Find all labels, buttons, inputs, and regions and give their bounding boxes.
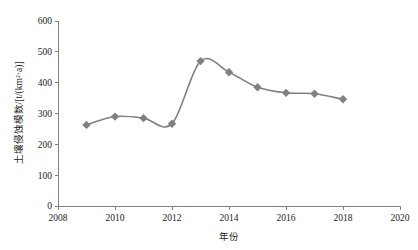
y-tick-label: 400 xyxy=(38,78,53,88)
data-point-marker xyxy=(111,112,119,120)
y-tick-label: 200 xyxy=(38,140,53,150)
x-axis-group: 2008201020122014201620182020 xyxy=(49,206,410,223)
data-point-marker xyxy=(253,83,261,91)
x-tick-label: 2018 xyxy=(334,213,353,223)
data-point-marker xyxy=(139,114,147,122)
series-line-soil-erosion xyxy=(87,59,344,127)
y-axis-title: 土壤侵蚀模数/[t/(km²·a)] xyxy=(13,62,25,165)
y-tick-label: 100 xyxy=(38,171,53,181)
y-tick-label: 500 xyxy=(38,47,53,57)
chart-container: 0100200300400500600 20082010201220142016… xyxy=(0,0,418,250)
x-axis-title: 年份 xyxy=(219,231,239,242)
x-tick-label: 2012 xyxy=(163,213,182,223)
y-axis-ticks xyxy=(55,21,59,206)
data-point-marker xyxy=(82,121,90,129)
data-point-marker xyxy=(310,90,318,98)
y-tick-label: 300 xyxy=(38,109,53,119)
y-axis-tick-labels: 0100200300400500600 xyxy=(38,16,53,211)
y-tick-label: 0 xyxy=(47,201,52,211)
x-tick-label: 2020 xyxy=(391,213,410,223)
x-tick-label: 2008 xyxy=(49,213,68,223)
data-point-marker xyxy=(339,95,347,103)
x-axis-ticks xyxy=(58,206,400,210)
line-chart: 0100200300400500600 20082010201220142016… xyxy=(0,0,418,250)
x-tick-label: 2016 xyxy=(277,213,296,223)
data-series-group xyxy=(82,57,347,129)
y-axis-group: 0100200300400500600 xyxy=(38,16,58,211)
y-tick-label: 600 xyxy=(38,16,53,26)
data-point-marker xyxy=(225,68,233,76)
x-tick-label: 2014 xyxy=(220,213,239,223)
x-axis-tick-labels: 2008201020122014201620182020 xyxy=(49,213,410,223)
x-tick-label: 2010 xyxy=(106,213,125,223)
data-point-marker xyxy=(282,89,290,97)
